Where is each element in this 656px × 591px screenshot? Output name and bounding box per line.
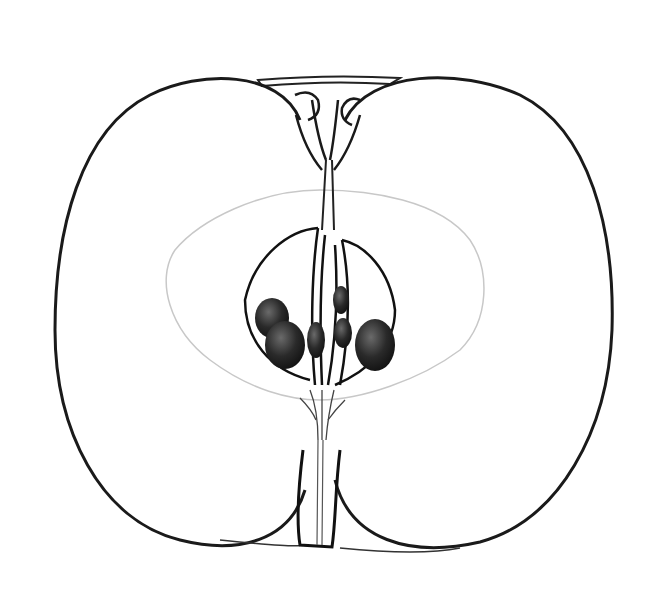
apple-right-half xyxy=(335,78,612,548)
calyx-band xyxy=(258,76,400,86)
stem xyxy=(298,450,340,547)
seeds xyxy=(255,286,395,371)
vascular-bundle xyxy=(300,390,345,440)
stem-inner xyxy=(317,440,323,545)
core-line xyxy=(322,160,334,230)
core-boundary xyxy=(166,190,484,400)
apple-illustration xyxy=(0,0,656,591)
calyx xyxy=(295,92,360,170)
